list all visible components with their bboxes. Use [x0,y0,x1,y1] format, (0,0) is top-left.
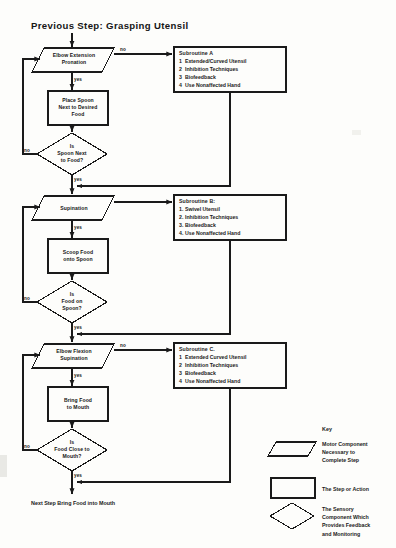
subroutine-c-item-4-text: Use Nonaffected Hand [185,378,240,384]
key-diamond-shape [270,503,314,529]
motor-label-stage1-line2: Pronation [36,59,112,65]
action-label-stage2-line2: onto Spoon [48,256,108,262]
subroutine-b-item-4-text: Use Nonaffected Hand [185,230,240,236]
subroutine-a-item-1-text: Extended/Curved Utensil [185,58,246,64]
subroutine-a-item-3-text: Biofeedback [185,74,216,80]
subroutine-a-item-4: 4Use Nonaffected Hand [179,82,246,90]
action-label-stage1-line1: Place Spoon [48,97,108,103]
sensory-label-stage2-line3: Spoon? [44,305,100,311]
sensory-label-stage3-line2: Food Close to [42,446,102,452]
motor-label-stage1-line1: Elbow Extension [36,52,112,58]
action-label-stage3-line2: to Mouth [48,404,108,410]
edge-label-yes-stage1-motor: yes [74,77,92,82]
subroutine-c-item-2-text: Inhibition Techniques [185,362,238,368]
edge-label-yes-stage1-sensory: yes [74,177,92,182]
key-sensory-line2: Component Which [322,513,370,521]
sensory-label-stage3-line3: Mouth? [42,453,102,459]
sensory-label-stage1-line1: Is [44,143,100,149]
motor-label-stage3-line1: Elbow Flexion [36,348,112,354]
key-parallelogram-shape [268,442,316,456]
subroutine-b-item-2-text: Inhibition Techniques [185,214,238,220]
key-motor-line1: Motor Component [322,440,368,448]
subroutine-c-content: Subroutine C. 1Extended Curved Utensil 2… [179,346,246,386]
key-sensory-line4: and Monitoring [322,530,370,538]
subroutine-a-item-2-text: Inhibition Techniques [185,66,238,72]
subroutine-a-item-3: 3Biofeedback [179,74,246,82]
sensory-label-stage2-line1: Is [44,291,100,297]
subroutine-c-item-1: 1Extended Curved Utensil [179,354,246,362]
key-sensory-line1: The Sensory [322,505,370,513]
subroutine-a-content: Subroutine A 1Extended/Curved Utensil 2I… [179,50,246,90]
subroutine-c-item-1-text: Extended Curved Utensil [185,354,246,360]
subroutine-b-item-2: 2.Inhibition Techniques [179,214,240,222]
key-entry-motor-text: Motor Component Necessary to Complete St… [322,440,368,465]
subroutine-c-item-4: 4Use Nonaffected Hand [179,378,246,386]
key-motor-line2: Necessary to [322,448,368,456]
subroutine-c-item-3: 3Biofeedback [179,370,246,378]
edge-label-no-stage3-motor: no [120,343,134,348]
subroutine-c-item-3-text: Biofeedback [185,370,216,376]
sensory-label-stage1-line2: Spoon Next [44,150,100,156]
subroutine-b-item-3: 3.Biofeedback [179,222,240,230]
flowchart-page: Previous Step: Grasping Utensil Elbow Ex… [0,0,396,548]
subroutine-a-header: Subroutine A [179,50,246,58]
subroutine-b-header: Subroutine B: [179,198,240,206]
edge-label-yes-stage3-sensory: yes [74,473,92,478]
subroutine-b-item-1: 1.Swivel Utensil [179,206,240,214]
edge-label-no-stage1-loop: no [24,148,38,153]
edge-label-yes-stage2-motor: yes [74,225,92,230]
subroutine-b-item-4: 4.Use Nonaffected Hand [179,230,240,238]
subroutine-b-content: Subroutine B: 1.Swivel Utensil 2.Inhibit… [179,198,240,238]
subroutine-b-item-1-text: Swivel Utensil [185,206,220,212]
motor-label-stage3-line2: Supination [36,355,112,361]
edge-label-no-stage1-motor: no [120,47,134,52]
next-step-label: Next Step Bring Food into Mouth [31,500,115,506]
edge-label-yes-stage2-sensory: yes [74,325,92,330]
sensory-label-stage1-line3: to Food? [44,157,100,163]
edge-label-yes-stage3-motor: yes [74,373,92,378]
scan-artifact-left [0,455,7,477]
sensory-label-stage2-line2: Food on [44,298,100,304]
subroutine-b-item-3-text: Biofeedback [185,222,216,228]
action-label-stage3-line1: Bring Food [48,397,108,403]
key-entry-sensory-text: The Sensory Component Which Provides Fee… [322,505,370,538]
previous-step-label: Previous Step: Grasping Utensil [31,20,188,31]
edge-label-no-stage3-loop: no [24,444,38,449]
action-label-stage1-line3: Food [48,111,108,117]
action-label-stage2-line1: Scoop Food [48,249,108,255]
edge-label-no-stage2-loop: no [24,296,38,301]
subroutine-c-header: Subroutine C. [179,346,246,354]
subroutine-a-item-4-text: Use Nonaffected Hand [185,82,240,88]
subroutine-a-item-1: 1Extended/Curved Utensil [179,58,246,66]
scan-artifact-right [352,130,361,135]
key-sensory-line3: Provides Feedback [322,521,370,529]
key-rectangle-shape [271,478,315,498]
subroutine-a-item-2: 2Inhibition Techniques [179,66,246,74]
subroutine-c-item-2: 2Inhibition Techniques [179,362,246,370]
sensory-label-stage3-line1: Is [42,439,102,445]
key-title: Key [322,426,332,432]
key-motor-line3: Complete Step [322,456,368,464]
key-action-line1: The Step or Action [322,485,369,493]
motor-label-stage2-line1: Supination [36,205,112,211]
key-entry-action-text: The Step or Action [322,485,369,493]
action-label-stage1-line2: Next to Desired [48,104,108,110]
